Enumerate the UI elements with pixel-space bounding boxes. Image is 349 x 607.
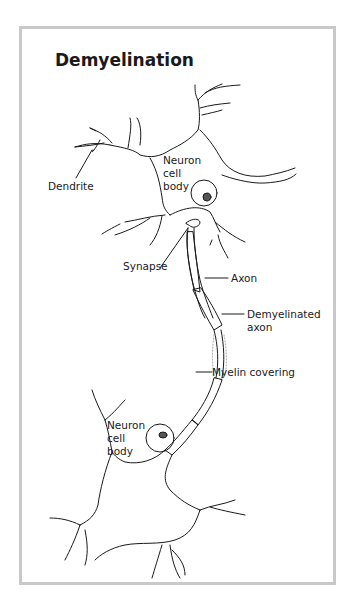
lower-nucleolus [159,432,167,438]
label-demyelinated-line2: axon [247,321,321,334]
label-upper-neuron: Neuron cell body [163,154,201,193]
synapse-shape [186,219,200,227]
label-demyelinated-line1: Demyelinated [247,308,321,321]
lower-neuron-outline [80,450,200,560]
label-lower-neuron-line2: cell [107,432,145,445]
label-lower-neuron-line1: Neuron [107,419,145,432]
label-synapse: Synapse [123,260,168,273]
dendrite-leader [76,150,92,178]
upper-nucleolus [203,193,211,201]
myelin-seg-2 [192,378,222,425]
label-axon: Axon [231,272,257,285]
neuron-illustration [0,0,349,607]
label-upper-neuron-line2: cell [163,167,201,180]
myelin-seg-3 [165,420,198,455]
label-lower-neuron: Neuron cell body [107,419,145,458]
lower-nucleus [146,424,174,452]
label-myelin-covering: Myelin covering [212,366,295,379]
label-dendrite: Dendrite [48,180,94,193]
label-lower-neuron-line3: body [107,445,145,458]
label-demyelinated-axon: Demyelinated axon [247,308,321,334]
label-upper-neuron-line1: Neuron [163,154,201,167]
myelin-seg-1 [193,288,222,330]
label-upper-neuron-line3: body [163,180,201,193]
